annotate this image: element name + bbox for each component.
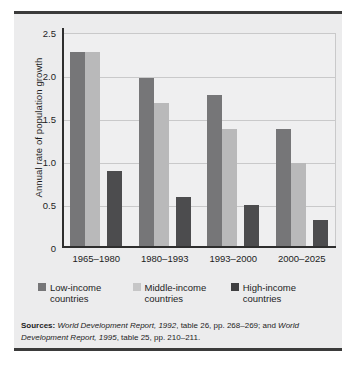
sources-note: Sources: World Development Report, 1992,… bbox=[21, 320, 331, 343]
y-tick-label: 1.5 bbox=[30, 114, 56, 125]
bottom-rule bbox=[14, 348, 342, 351]
y-tick-label: 1.0 bbox=[30, 157, 56, 168]
sources-ref1-detail: , table 26, pp. 268–269; and bbox=[176, 321, 278, 330]
y-tick-label: 2.5 bbox=[30, 28, 56, 39]
sources-label: Sources: bbox=[21, 321, 55, 330]
high-income-swatch-icon bbox=[231, 283, 239, 291]
x-tick-label: 2000–2025 bbox=[268, 250, 337, 266]
axes: 1965–1980 1980–1993 1993–2000 2000–2025 bbox=[62, 18, 336, 266]
bar-middle-income bbox=[291, 163, 306, 248]
y-axis-line bbox=[62, 28, 64, 248]
y-axis-ticks: 2.5 2.0 1.5 1.0 0.5 0 bbox=[30, 18, 56, 266]
figure: Annual rate of population growth 2.5 2.0… bbox=[0, 0, 356, 379]
bar-high-income bbox=[313, 220, 328, 248]
x-tick-label: 1965–1980 bbox=[62, 250, 131, 266]
low-income-swatch-icon bbox=[38, 283, 46, 291]
bar-middle-income bbox=[154, 103, 169, 248]
bar-low-income bbox=[276, 129, 291, 248]
bar-high-income bbox=[176, 197, 191, 248]
legend-item-middle-income: Middle-incomecountries bbox=[133, 282, 231, 304]
bar-high-income bbox=[107, 171, 122, 248]
bar-group bbox=[268, 33, 337, 248]
x-axis-labels: 1965–1980 1980–1993 1993–2000 2000–2025 bbox=[62, 250, 336, 266]
x-tick-label: 1980–1993 bbox=[131, 250, 200, 266]
bar-low-income bbox=[207, 95, 222, 248]
legend-item-high-income: High-incomecountries bbox=[231, 282, 318, 304]
plot-area: Annual rate of population growth 2.5 2.0… bbox=[14, 18, 342, 266]
bar-middle-income bbox=[85, 52, 100, 248]
bar-group bbox=[199, 33, 268, 248]
y-tick-label: 0.5 bbox=[30, 200, 56, 211]
x-axis-line bbox=[62, 246, 336, 248]
legend-label: Middle-incomecountries bbox=[145, 282, 207, 304]
legend-label: High-incomecountries bbox=[243, 282, 296, 304]
bar-low-income bbox=[70, 52, 85, 248]
x-tick-label: 1993–2000 bbox=[199, 250, 268, 266]
bar-group bbox=[62, 33, 131, 248]
bar-low-income bbox=[139, 78, 154, 248]
bar-middle-income bbox=[222, 129, 237, 248]
legend-item-low-income: Low-incomecountries bbox=[38, 282, 133, 304]
sources-ref2-detail: , table 25, pp. 210–211. bbox=[117, 333, 200, 342]
legend-label: Low-incomecountries bbox=[50, 282, 101, 304]
middle-income-swatch-icon bbox=[133, 283, 141, 291]
bar-high-income bbox=[244, 205, 259, 248]
y-tick-label: 2.0 bbox=[30, 71, 56, 82]
bar-group bbox=[131, 33, 200, 248]
bar-groups bbox=[62, 33, 336, 248]
y-tick-label: 0 bbox=[30, 243, 56, 254]
legend: Low-incomecountries Middle-incomecountri… bbox=[38, 282, 318, 304]
sources-ref1-title: World Development Report, 1992 bbox=[57, 321, 176, 330]
